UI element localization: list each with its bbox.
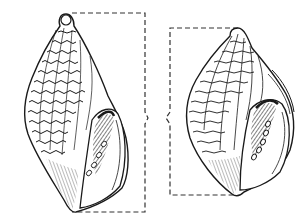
illustration: Two gastropod shells line drawing: [0, 0, 306, 224]
shell-drawing: [0, 0, 306, 224]
right-shell: [187, 28, 294, 196]
left-shell: [25, 14, 129, 212]
